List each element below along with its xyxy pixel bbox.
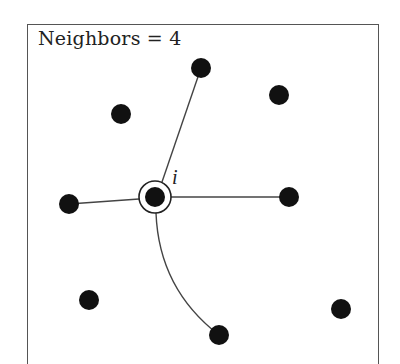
edges [69, 68, 289, 335]
node-right [279, 187, 299, 207]
edge-to-left [69, 199, 139, 204]
edge-to-top [162, 68, 201, 182]
node-lower-left [79, 290, 99, 310]
node-upper-left [111, 104, 131, 124]
node-top [191, 58, 211, 78]
edge-to-bottom [156, 213, 219, 335]
node-lower-right [331, 299, 351, 319]
node-bottom [209, 325, 229, 345]
center-node [139, 181, 171, 213]
node-left [59, 194, 79, 214]
node-upper-right [269, 85, 289, 105]
center-node-label: i [172, 166, 178, 189]
center-node-dot [145, 187, 165, 207]
